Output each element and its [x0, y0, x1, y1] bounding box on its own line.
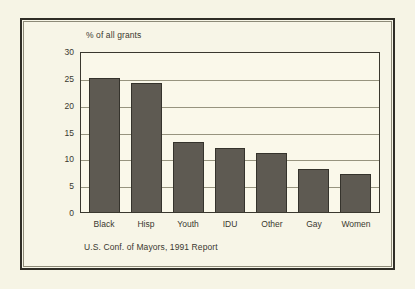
- plot-area: [80, 52, 380, 213]
- y-axis-tick-label: 10: [52, 155, 74, 164]
- x-axis-tick-label: Gay: [293, 219, 335, 229]
- bar-slot: [334, 53, 376, 212]
- y-axis-tick-label: 15: [52, 129, 74, 138]
- x-axis-tick-label: Other: [251, 219, 293, 229]
- bar-chart: % of all grants 302520151050 BlackHispYo…: [22, 20, 397, 272]
- bar-slot: [167, 53, 209, 212]
- x-axis-tick-label: Black: [83, 219, 125, 229]
- bar[interactable]: [298, 169, 329, 212]
- bar[interactable]: [173, 142, 204, 212]
- bar[interactable]: [340, 174, 371, 212]
- bar-slot: [209, 53, 251, 212]
- figure-frame: % of all grants 302520151050 BlackHispYo…: [20, 18, 395, 270]
- x-axis-tick-labels: BlackHispYouthIDUOtherGayWomen: [80, 219, 380, 229]
- y-axis-tick-label: 20: [52, 102, 74, 111]
- bar-slot: [84, 53, 126, 212]
- y-axis-tick-label: 5: [52, 182, 74, 191]
- x-axis-tick-label: Women: [335, 219, 377, 229]
- bar-series: [81, 53, 379, 212]
- source-caption: U.S. Conf. of Mayors, 1991 Report: [84, 242, 218, 252]
- x-axis-tick-label: IDU: [209, 219, 251, 229]
- y-axis-tick-label: 0: [52, 209, 74, 218]
- bar[interactable]: [215, 148, 246, 212]
- bar-slot: [293, 53, 335, 212]
- y-axis-title: % of all grants: [86, 30, 141, 40]
- y-axis-tick-label: 25: [52, 75, 74, 84]
- bar-slot: [251, 53, 293, 212]
- x-axis-tick-label: Hisp: [125, 219, 167, 229]
- y-axis-tick-label: 30: [52, 48, 74, 57]
- bar[interactable]: [256, 153, 287, 212]
- x-axis-tick-label: Youth: [167, 219, 209, 229]
- bar-slot: [126, 53, 168, 212]
- bar[interactable]: [131, 83, 162, 212]
- bar[interactable]: [89, 78, 120, 212]
